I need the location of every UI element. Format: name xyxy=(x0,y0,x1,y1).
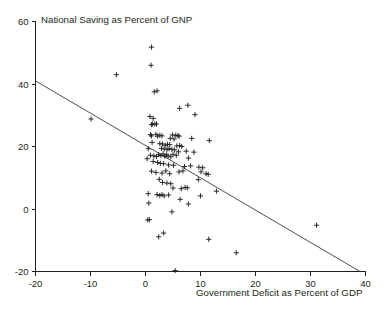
data-point-marker xyxy=(185,103,190,108)
data-point-marker xyxy=(148,153,153,158)
data-point-marker xyxy=(114,72,119,77)
data-point-marker xyxy=(153,170,158,175)
data-point-marker xyxy=(155,160,160,165)
data-point-marker xyxy=(154,192,159,197)
data-point-marker xyxy=(192,112,197,117)
data-point-marker xyxy=(151,159,156,164)
x-tick-label: -10 xyxy=(84,278,98,289)
axes xyxy=(32,22,366,276)
trend-line xyxy=(36,81,361,272)
data-point-marker xyxy=(167,171,172,176)
data-point-marker xyxy=(160,141,165,146)
data-point-marker xyxy=(207,138,212,143)
data-points xyxy=(88,45,319,274)
x-axis-title: Government Deficit as Percent of GDP xyxy=(196,288,362,298)
data-point-marker xyxy=(206,237,211,242)
data-point-marker xyxy=(186,155,191,160)
data-point-marker xyxy=(186,201,191,206)
data-point-marker xyxy=(188,163,193,168)
data-point-marker xyxy=(189,136,194,141)
x-tick-label: 0 xyxy=(143,278,148,289)
data-point-marker xyxy=(162,146,167,151)
y-tick-label: 40 xyxy=(18,79,29,90)
data-point-marker xyxy=(88,116,93,121)
data-point-marker xyxy=(176,169,181,174)
data-point-marker xyxy=(149,45,154,50)
data-point-marker xyxy=(152,89,157,94)
data-point-marker xyxy=(179,186,184,191)
data-point-marker xyxy=(173,268,178,273)
data-point-marker xyxy=(314,223,319,228)
regression-line xyxy=(36,81,361,272)
x-tick-label: -20 xyxy=(29,278,43,289)
data-point-marker xyxy=(156,234,161,239)
data-point-marker xyxy=(166,162,171,167)
data-point-marker xyxy=(148,132,153,137)
data-point-marker xyxy=(149,122,154,127)
data-point-marker xyxy=(157,177,162,182)
data-point-marker xyxy=(169,147,174,152)
y-axis-title: National Saving as Percent of GNP xyxy=(41,15,192,25)
scatter-plot-figure: -200204060-20-10010203040 National Savin… xyxy=(0,0,384,310)
y-tick-label: -20 xyxy=(15,266,29,277)
y-tick-label: 60 xyxy=(18,16,29,27)
y-tick-label: 0 xyxy=(23,204,28,215)
data-point-marker xyxy=(164,180,169,185)
data-point-marker xyxy=(178,197,183,202)
data-point-marker xyxy=(146,200,151,205)
data-point-marker xyxy=(184,149,189,154)
data-point-marker xyxy=(159,146,164,151)
data-point-marker xyxy=(234,250,239,255)
data-point-marker xyxy=(149,169,154,174)
data-point-marker xyxy=(166,192,171,197)
data-point-marker xyxy=(154,88,159,93)
data-point-marker xyxy=(150,140,155,145)
data-point-marker xyxy=(148,63,153,68)
data-point-marker xyxy=(146,191,151,196)
data-point-marker xyxy=(191,150,196,155)
data-point-marker xyxy=(177,106,182,111)
data-point-marker xyxy=(146,146,151,151)
y-tick-label: 20 xyxy=(18,141,29,152)
data-point-marker xyxy=(169,209,174,214)
data-point-marker xyxy=(151,153,156,158)
data-point-marker xyxy=(145,156,150,161)
data-point-marker xyxy=(161,230,166,235)
data-point-marker xyxy=(196,165,201,170)
data-point-marker xyxy=(160,180,165,185)
data-point-marker xyxy=(176,134,181,139)
data-point-marker xyxy=(214,189,219,194)
data-point-marker xyxy=(198,193,203,198)
plot-canvas: -200204060-20-10010203040 xyxy=(0,0,384,310)
data-point-marker xyxy=(161,161,166,166)
